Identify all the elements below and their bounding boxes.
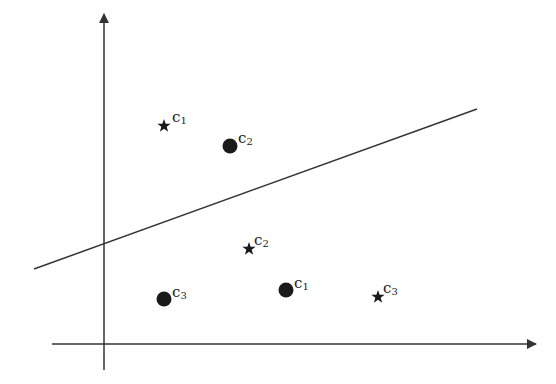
point-label: c2 <box>238 131 253 147</box>
label-subscript: 3 <box>391 286 397 297</box>
point-label: c1 <box>294 276 309 292</box>
diagram-canvas <box>0 0 556 384</box>
point-label: c3 <box>172 285 187 301</box>
label-subscript: 3 <box>180 290 186 301</box>
label-subscript: 1 <box>180 115 186 126</box>
circle-marker-icon <box>279 283 294 298</box>
point-label: c3 <box>383 281 398 297</box>
circle-marker-icon <box>223 139 238 154</box>
point-label: c2 <box>254 233 269 249</box>
circle-marker-icon <box>157 292 172 307</box>
point-label: c1 <box>172 110 187 126</box>
label-subscript: 1 <box>302 281 308 292</box>
label-subscript: 2 <box>246 136 252 147</box>
star-marker-icon <box>157 119 170 132</box>
label-subscript: 2 <box>262 238 268 249</box>
